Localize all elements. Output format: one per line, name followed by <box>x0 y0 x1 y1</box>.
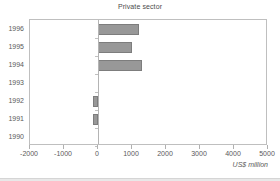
x-axis-tick-label: 5000 <box>259 150 275 157</box>
x-axis-caption: US$ million <box>233 161 268 168</box>
x-axis-tick <box>131 145 132 149</box>
x-axis-tick-label: 1000 <box>123 150 139 157</box>
x-axis-tick-label: -2000 <box>20 150 38 157</box>
x-axis-tick-label: 2000 <box>157 150 173 157</box>
x-axis-tick <box>165 145 166 149</box>
x-axis-tick <box>29 145 30 149</box>
y-axis-label: 1996 <box>8 25 24 32</box>
bars-layer <box>30 20 266 144</box>
x-axis-tick <box>199 145 200 149</box>
y-axis-labels: 1996199519941993199219911990 <box>0 19 27 145</box>
y-axis-label: 1994 <box>8 61 24 68</box>
x-axis-tick <box>97 145 98 149</box>
plot-area <box>29 19 267 145</box>
bar <box>98 42 132 53</box>
x-axis-tick-label: 3000 <box>191 150 207 157</box>
x-axis-tick <box>267 145 268 149</box>
y-axis-label: 1995 <box>8 43 24 50</box>
x-axis-tick-label: 0 <box>95 150 99 157</box>
y-axis-label: 1990 <box>8 133 24 140</box>
bar <box>98 60 142 71</box>
x-axis-tick-label: 4000 <box>225 150 241 157</box>
x-axis-tick <box>63 145 64 149</box>
x-axis-tick-label: -1000 <box>54 150 72 157</box>
y-axis-label: 1992 <box>8 97 24 104</box>
bar <box>98 24 139 35</box>
x-axis-tick <box>233 145 234 149</box>
y-axis-label: 1993 <box>8 79 24 86</box>
footer-rule <box>0 178 280 181</box>
y-axis-label: 1991 <box>8 115 24 122</box>
zero-baseline <box>98 20 99 144</box>
chart-title: Private sector <box>0 3 280 10</box>
chart-figure: Private sector 1996199519941993199219911… <box>0 0 280 181</box>
